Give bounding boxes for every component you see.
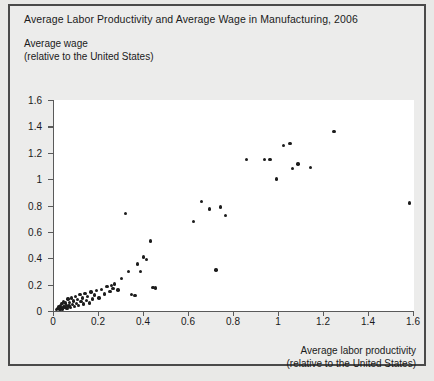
- figure-background: Average Labor Productivity and Average W…: [0, 0, 434, 381]
- data-point: [127, 270, 130, 273]
- x-tick-label: 0.6: [168, 316, 208, 327]
- data-point: [275, 177, 278, 180]
- data-point: [139, 270, 142, 273]
- y-tick-label: 0.4: [8, 253, 42, 264]
- data-point: [309, 166, 312, 169]
- data-point: [116, 288, 119, 291]
- x-tick-label: 1.2: [303, 316, 343, 327]
- y-axis-label-main: Average wage: [24, 38, 88, 49]
- data-point: [296, 162, 299, 165]
- data-point: [124, 212, 127, 215]
- data-point: [219, 205, 222, 208]
- x-tick-label: 0.4: [123, 316, 163, 327]
- data-point: [88, 301, 91, 304]
- data-point: [332, 130, 335, 133]
- y-tick-label: 0.2: [8, 279, 42, 290]
- scatter-plot-area: [53, 100, 414, 312]
- data-point: [103, 292, 106, 295]
- data-point: [408, 201, 411, 204]
- data-point: [224, 214, 227, 217]
- data-point: [214, 268, 217, 271]
- y-axis-label: Average wage (relative to the United Sta…: [24, 38, 154, 63]
- x-tick-label: 1: [258, 316, 298, 327]
- data-point: [86, 295, 89, 298]
- data-point: [136, 262, 139, 265]
- x-tick-label: 1.6: [393, 316, 433, 327]
- data-point: [93, 293, 96, 296]
- data-point: [149, 239, 152, 242]
- data-point: [263, 158, 266, 161]
- data-point: [133, 294, 136, 297]
- data-point: [81, 296, 84, 299]
- x-tick-label: 0: [33, 316, 73, 327]
- y-tick-label: 1: [8, 174, 42, 185]
- data-point: [95, 289, 98, 292]
- x-tick-label: 0.2: [78, 316, 118, 327]
- data-point: [282, 144, 285, 147]
- x-tick-label: 1.4: [348, 316, 388, 327]
- data-point: [208, 207, 211, 210]
- x-axis-label: Average labor productivity (relative to …: [286, 345, 416, 370]
- data-point: [192, 220, 195, 223]
- data-point: [82, 302, 85, 305]
- data-point: [97, 296, 100, 299]
- data-point: [120, 277, 123, 280]
- y-tick-label: 0: [8, 306, 42, 317]
- data-point: [91, 297, 94, 300]
- data-point: [154, 286, 157, 289]
- data-point: [69, 306, 72, 309]
- y-axis-label-sub: (relative to the United States): [24, 51, 154, 64]
- y-tick-label: 1.6: [8, 95, 42, 106]
- data-point: [268, 158, 271, 161]
- data-point: [100, 288, 103, 291]
- y-tick-label: 0.8: [8, 200, 42, 211]
- data-point: [77, 304, 80, 307]
- x-tick-label: 0.8: [213, 316, 253, 327]
- x-axis-label-sub: (relative to the United States): [286, 358, 416, 369]
- data-point: [111, 287, 114, 290]
- data-point: [245, 158, 248, 161]
- data-point: [200, 200, 203, 203]
- x-axis-label-main: Average labor productivity: [301, 345, 416, 356]
- chart-title: Average Labor Productivity and Average W…: [24, 13, 358, 25]
- data-point: [108, 290, 111, 293]
- data-point: [113, 282, 116, 285]
- data-point: [105, 285, 108, 288]
- data-point: [288, 142, 291, 145]
- y-tick-label: 0.6: [8, 226, 42, 237]
- data-point: [145, 258, 148, 261]
- data-point: [73, 305, 76, 308]
- y-tick-label: 1.2: [8, 147, 42, 158]
- data-point: [291, 167, 294, 170]
- y-tick-label: 1.4: [8, 121, 42, 132]
